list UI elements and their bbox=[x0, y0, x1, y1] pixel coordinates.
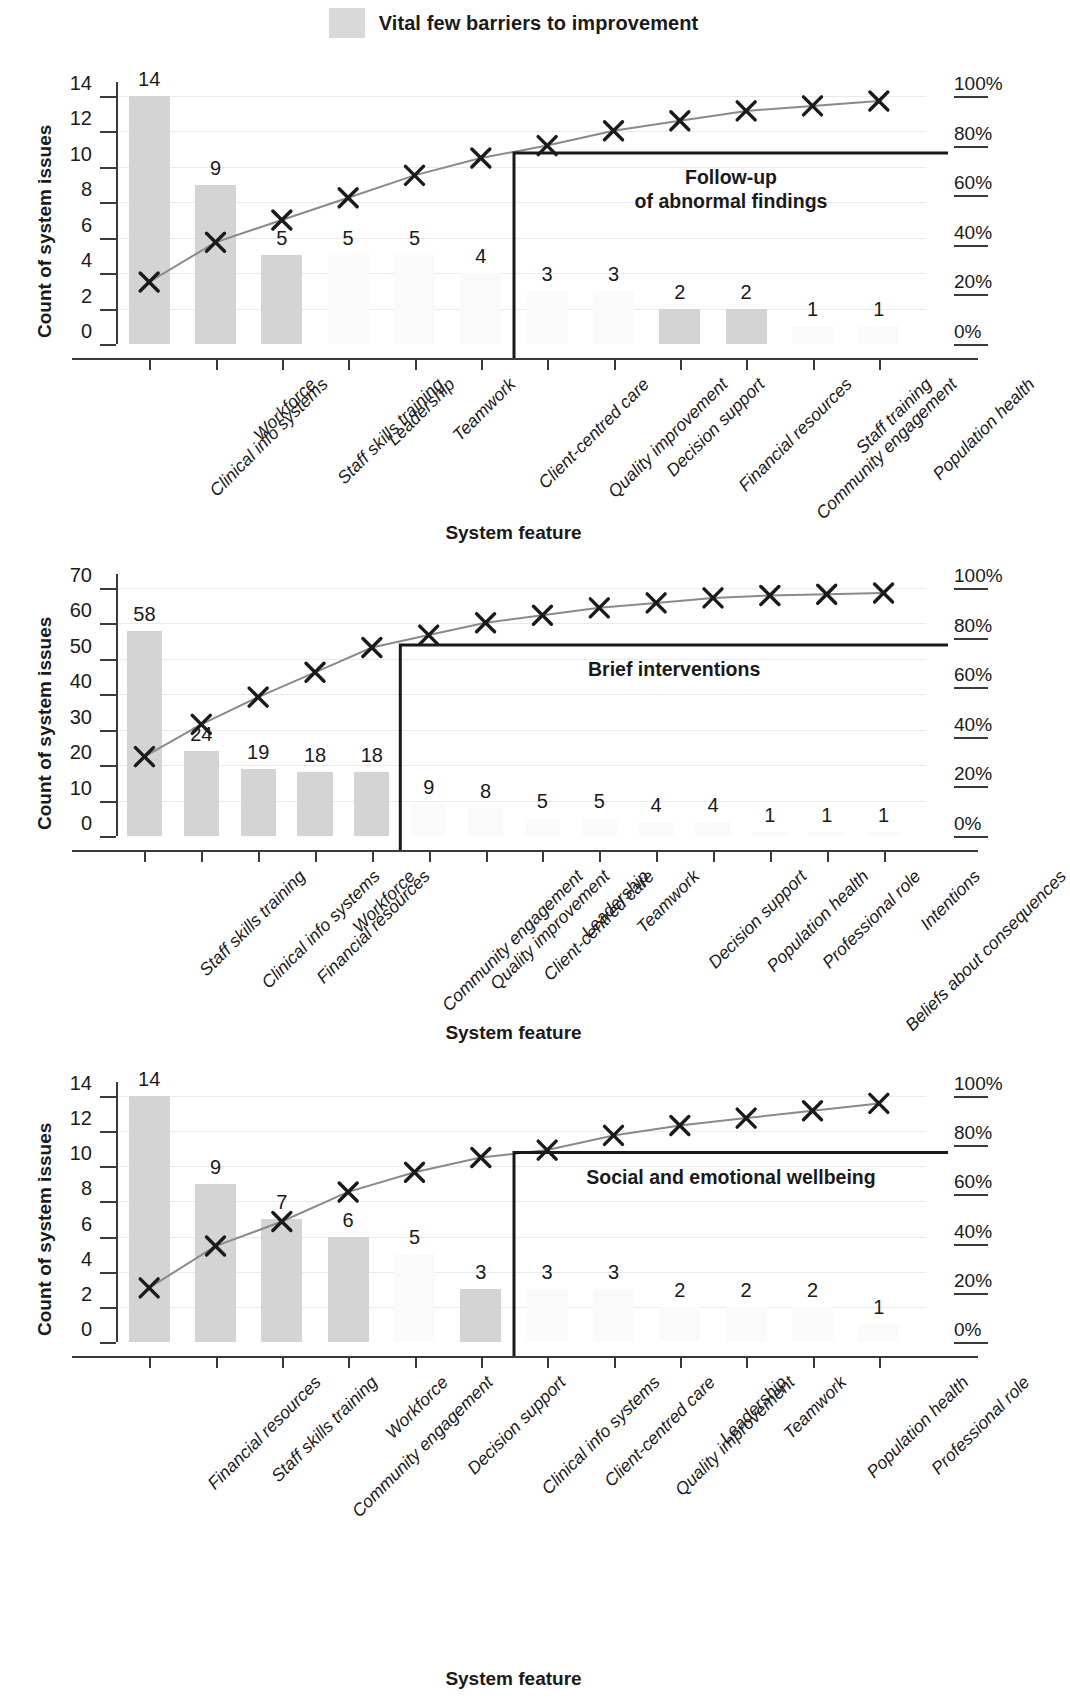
percent-tick-label: 40% bbox=[954, 1221, 992, 1243]
cumulative-marker-x bbox=[273, 211, 291, 229]
cumulative-marker-x bbox=[472, 1149, 490, 1167]
bar-value-label: 4 bbox=[707, 794, 718, 817]
y-tick bbox=[100, 730, 116, 732]
bar bbox=[184, 751, 219, 836]
percent-tick-label: 80% bbox=[954, 615, 992, 637]
bar bbox=[809, 832, 844, 836]
cumulative-marker-x bbox=[875, 584, 893, 602]
percent-tick bbox=[954, 195, 988, 197]
gridline bbox=[116, 1131, 926, 1132]
x-tick bbox=[770, 852, 772, 862]
x-tick bbox=[415, 360, 417, 370]
percent-tick bbox=[954, 1096, 988, 1098]
cumulative-marker-x bbox=[590, 599, 608, 617]
x-tick bbox=[486, 852, 488, 862]
bar-value-label: 1 bbox=[878, 804, 889, 827]
bar bbox=[328, 255, 369, 344]
bar-value-label: 2 bbox=[674, 281, 685, 304]
bar bbox=[394, 255, 435, 344]
bar-value-label: 14 bbox=[138, 1068, 160, 1091]
y-tick bbox=[100, 659, 116, 661]
x-tick bbox=[656, 852, 658, 862]
bar bbox=[525, 818, 560, 836]
annotation-label: Follow-up of abnormal findings bbox=[511, 165, 951, 214]
y-tick bbox=[100, 1237, 116, 1239]
y-tick-label: 0 bbox=[40, 320, 92, 343]
cumulative-marker-x bbox=[737, 1109, 755, 1127]
bar bbox=[858, 1324, 899, 1342]
bar bbox=[593, 1289, 634, 1342]
gridline bbox=[116, 309, 926, 310]
x-tick bbox=[149, 360, 151, 370]
x-tick bbox=[827, 852, 829, 862]
y-tick-label: 6 bbox=[40, 214, 92, 237]
percent-tick-label: 60% bbox=[954, 1171, 992, 1193]
bar-value-label: 4 bbox=[651, 794, 662, 817]
x-tick bbox=[144, 852, 146, 862]
gridline bbox=[116, 730, 926, 731]
percent-tick-label: 0% bbox=[954, 1319, 981, 1341]
y-tick-label: 12 bbox=[40, 1107, 92, 1130]
x-tick bbox=[746, 1358, 748, 1368]
x-tick bbox=[149, 1358, 151, 1368]
percent-tick-label: 0% bbox=[954, 321, 981, 343]
x-tick bbox=[282, 1358, 284, 1368]
gridline bbox=[116, 238, 926, 239]
bar-value-label: 5 bbox=[343, 227, 354, 250]
gridline bbox=[116, 1201, 926, 1202]
bar-value-label: 1 bbox=[807, 298, 818, 321]
bar bbox=[582, 818, 617, 836]
x-tick bbox=[680, 360, 682, 370]
x-axis-title: System feature bbox=[0, 1668, 1027, 1690]
gridline bbox=[116, 694, 926, 695]
gridline bbox=[116, 588, 926, 589]
y-tick bbox=[100, 623, 116, 625]
x-tick bbox=[547, 1358, 549, 1368]
y-tick-label: 0 bbox=[40, 1318, 92, 1341]
percent-tick-label: 60% bbox=[954, 664, 992, 686]
bar bbox=[460, 273, 501, 344]
y-tick bbox=[100, 1342, 116, 1344]
bar bbox=[866, 832, 901, 836]
cumulative-marker-x bbox=[704, 589, 722, 607]
percent-tick bbox=[954, 96, 988, 98]
percent-tick-label: 0% bbox=[954, 813, 981, 835]
y-axis-line bbox=[116, 1082, 118, 1342]
cumulative-marker-x bbox=[804, 1102, 822, 1120]
y-tick-label: 14 bbox=[40, 1072, 92, 1095]
gridline bbox=[116, 1237, 926, 1238]
bar bbox=[261, 255, 302, 344]
bar-value-label: 14 bbox=[138, 68, 160, 91]
percent-tick-label: 20% bbox=[954, 271, 992, 293]
bar-value-label: 1 bbox=[873, 298, 884, 321]
gridline bbox=[116, 96, 926, 97]
x-tick bbox=[415, 1358, 417, 1368]
cumulative-marker-x bbox=[306, 663, 324, 681]
bar bbox=[639, 822, 674, 836]
bar bbox=[593, 291, 634, 344]
x-tick bbox=[680, 1358, 682, 1368]
y-tick-label: 4 bbox=[40, 1248, 92, 1271]
x-tick bbox=[542, 852, 544, 862]
x-tick bbox=[315, 852, 317, 862]
gridline bbox=[116, 1096, 926, 1097]
x-tick bbox=[547, 360, 549, 370]
bar bbox=[241, 769, 276, 836]
cumulative-marker-x bbox=[804, 97, 822, 115]
x-tick bbox=[614, 1358, 616, 1368]
y-tick-label: 20 bbox=[40, 741, 92, 764]
x-tick bbox=[201, 852, 203, 862]
cumulative-marker-x bbox=[605, 1126, 623, 1144]
percent-tick bbox=[954, 245, 988, 247]
cumulative-marker-x bbox=[533, 606, 551, 624]
y-tick bbox=[100, 167, 116, 169]
bar bbox=[411, 804, 446, 836]
bar bbox=[394, 1254, 435, 1342]
bar bbox=[261, 1219, 302, 1342]
percent-tick bbox=[954, 1244, 988, 1246]
y-tick bbox=[100, 1272, 116, 1274]
y-tick-label: 8 bbox=[40, 1177, 92, 1200]
y-tick-label: 10 bbox=[40, 777, 92, 800]
y-tick-label: 2 bbox=[40, 1283, 92, 1306]
y-tick bbox=[100, 588, 116, 590]
